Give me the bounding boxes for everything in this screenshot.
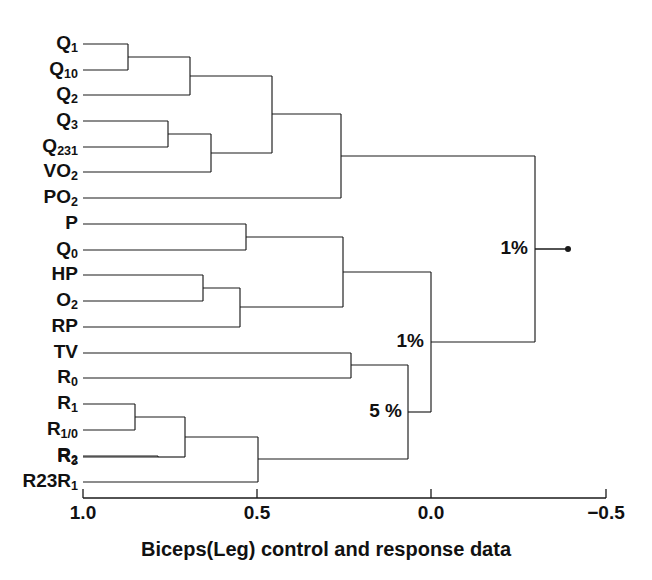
figure-caption: Biceps(Leg) control and response data <box>141 538 512 560</box>
dendrogram-figure: Q1Q10Q2Q3Q231VO2PO2PQ0HPO2RPTVR0R1R1/0R2… <box>0 0 652 580</box>
leaf-label-Q1: Q1 <box>56 32 78 55</box>
leaf-label-Q0: Q0 <box>56 238 78 261</box>
dendrogram-node-R1group-R2R3 <box>135 417 185 457</box>
dendrogram-node-R1-R1_0 <box>83 404 135 430</box>
leaf-label-R1_0: R1/0 <box>47 418 78 441</box>
axis-tick-label-0.0: 0.0 <box>418 502 444 523</box>
leaf-label-O2: O2 <box>56 289 78 312</box>
root-stub <box>535 246 571 252</box>
leaf-label-Q3: Q3 <box>56 109 78 132</box>
leaf-label-PO2: PO2 <box>44 186 78 209</box>
axis-tick-label-0.5: 0.5 <box>244 502 271 523</box>
root-terminal-dot <box>565 246 571 252</box>
x-axis: 1.00.50.0−0.5 <box>70 489 625 523</box>
dendrogram-node-upper-PO2 <box>83 114 341 198</box>
dendrogram-node-HPO2-RP <box>83 288 240 327</box>
leaf-label-R3: R3 <box>57 445 78 468</box>
axis-tick-label-1.0: 1.0 <box>70 502 96 523</box>
dendrogram-node-R2-R3 <box>83 456 158 457</box>
leaf-label-TV: TV <box>54 341 79 362</box>
node-significance-label-m16: 5 % <box>369 400 402 421</box>
axis-tick-label-−0.5: −0.5 <box>587 502 625 523</box>
leaf-label-R0: R0 <box>57 366 78 389</box>
dendrogram-node-P-Q0 <box>83 224 246 250</box>
caption-label: Biceps(Leg) control and response data <box>141 538 512 560</box>
dendrogram-node-Q3-Q231 <box>83 121 168 147</box>
leaf-labels: Q1Q10Q2Q3Q231VO2PO2PQ0HPO2RPTVR0R1R1/0R2… <box>22 32 78 493</box>
dendrogram-node-PQ0-HPO2RP <box>240 237 343 307</box>
leaf-label-VO2: VO2 <box>44 160 78 183</box>
dendrogram-node-Q1-Q10 <box>83 44 128 70</box>
leaf-label-Q231: Q231 <box>42 135 78 158</box>
dendrogram-node-Rgroup-R23R1 <box>83 437 258 482</box>
leaf-label-P: P <box>65 212 78 233</box>
leaf-label-HP: HP <box>52 263 79 284</box>
leaf-label-R23R1: R23R1 <box>22 470 78 493</box>
node-significance-label-m18: 1% <box>501 237 529 258</box>
dendrogram-canvas: Q1Q10Q2Q3Q231VO2PO2PQ0HPO2RPTVR0R1R1/0R2… <box>0 0 652 580</box>
leaf-label-RP: RP <box>52 315 79 336</box>
node-significance-labels: 1%1%5 % <box>369 237 528 421</box>
dendrogram-node-Q3Q231-VO2 <box>83 134 211 172</box>
leaf-label-R1: R1 <box>57 392 78 415</box>
dendrogram-node-TV-R0 <box>83 353 351 378</box>
dendrogram-node-Q1Q10-Q2 <box>83 57 190 95</box>
dendrogram-node-HP-O2 <box>83 275 203 301</box>
leaf-label-Q2: Q2 <box>56 83 78 106</box>
dendrogram-links <box>83 44 535 482</box>
dendrogram-node-Qcluster-VO2cluster <box>190 76 272 153</box>
node-significance-label-m17: 1% <box>397 330 425 351</box>
leaf-label-Q10: Q10 <box>49 58 78 81</box>
